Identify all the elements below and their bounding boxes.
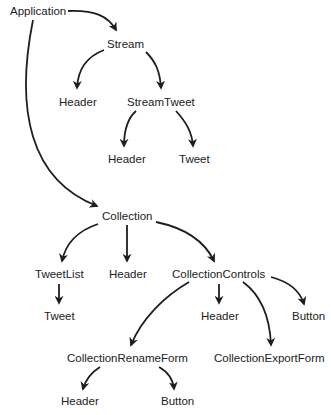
node-controls-button: Button [292, 310, 325, 322]
edge-renameform-header [83, 367, 100, 389]
node-application: Application [10, 5, 66, 17]
edge-collectioncontrols-exportform [243, 282, 271, 345]
nodes: Application Stream Header StreamTweet He… [10, 5, 325, 407]
node-tweetlist: TweetList [35, 268, 84, 280]
node-collectioncontrols: CollectionControls [172, 268, 266, 280]
component-tree-diagram: Application Stream Header StreamTweet He… [0, 0, 331, 415]
node-renameform-button: Button [161, 395, 194, 407]
edge-stream-streamtweet [146, 52, 161, 88]
node-collection: Collection [102, 210, 153, 222]
node-tweetlist-tweet: Tweet [44, 310, 75, 322]
edges [26, 11, 304, 389]
node-streamtweet-header: Header [108, 153, 146, 165]
node-collectionexportform: CollectionExportForm [214, 352, 325, 364]
node-stream: Stream [107, 38, 144, 50]
node-streamtweet: StreamTweet [127, 96, 196, 108]
edge-collection-tweetlist [62, 224, 98, 261]
node-renameform-header: Header [61, 395, 99, 407]
edge-stream-header [77, 50, 104, 88]
node-collectionrenameform: CollectionRenameForm [67, 352, 188, 364]
edge-renameform-button [159, 367, 174, 389]
edge-collectioncontrols-button [271, 277, 304, 304]
edge-collection-collectioncontrols [156, 222, 214, 261]
node-controls-header: Header [201, 310, 239, 322]
edge-streamtweet-tweet [176, 111, 193, 146]
node-streamtweet-tweet: Tweet [179, 153, 210, 165]
edge-application-stream [68, 11, 116, 30]
edge-collectioncontrols-renameform [131, 282, 189, 345]
edge-streamtweet-header [124, 111, 136, 146]
node-stream-header: Header [59, 96, 97, 108]
node-collection-header: Header [109, 268, 147, 280]
edge-application-collection [26, 20, 97, 206]
